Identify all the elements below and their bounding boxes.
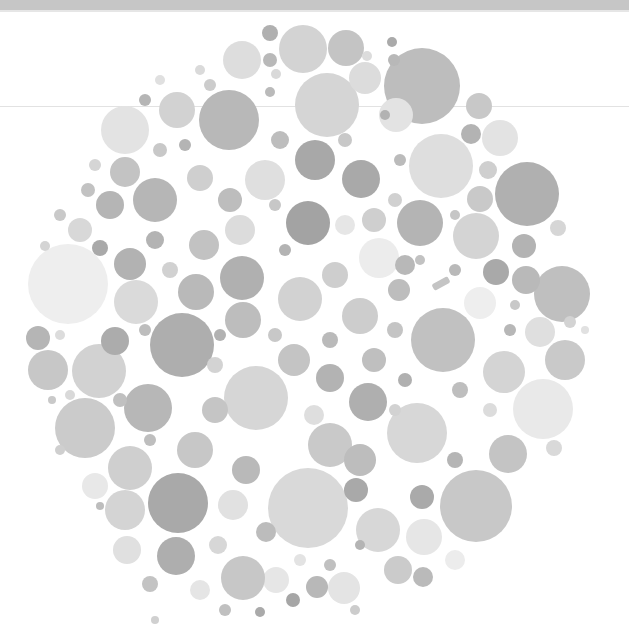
- dot: [220, 256, 264, 300]
- dot: [295, 140, 335, 180]
- dot: [359, 238, 399, 278]
- dot: [108, 446, 152, 490]
- dot: [92, 240, 108, 256]
- dot: [534, 266, 590, 322]
- dot: [81, 183, 95, 197]
- dot: [483, 351, 525, 393]
- dot: [413, 567, 433, 587]
- dot: [406, 519, 442, 555]
- dot: [342, 298, 378, 334]
- dot: [447, 452, 463, 468]
- dot: [139, 94, 151, 106]
- dot: [398, 373, 412, 387]
- dot: [268, 328, 282, 342]
- dot: [512, 266, 540, 294]
- dot: [150, 313, 214, 377]
- dot: [179, 139, 191, 151]
- dot: [513, 379, 573, 439]
- dot: [389, 404, 401, 416]
- dot: [271, 69, 281, 79]
- dot: [294, 554, 306, 566]
- dot: [278, 344, 310, 376]
- dot: [262, 25, 278, 41]
- dot: [483, 259, 509, 285]
- dot: [268, 468, 348, 548]
- dot: [328, 30, 364, 66]
- dot: [55, 445, 65, 455]
- dot: [338, 133, 352, 147]
- dot: [295, 73, 359, 137]
- dot: [218, 188, 242, 212]
- dot: [218, 490, 248, 520]
- dot: [467, 186, 493, 212]
- dot: [495, 162, 559, 226]
- dot: [153, 143, 167, 157]
- dot: [110, 157, 140, 187]
- dot: [581, 326, 589, 334]
- dot: [304, 405, 324, 425]
- dot: [148, 473, 208, 533]
- dot: [157, 537, 195, 575]
- small-mark: [431, 276, 450, 291]
- dot: [349, 383, 387, 421]
- dot: [245, 160, 285, 200]
- dot: [449, 264, 461, 276]
- dot: [452, 382, 468, 398]
- dot: [101, 327, 129, 355]
- dot: [362, 348, 386, 372]
- dot: [68, 218, 92, 242]
- dot: [286, 593, 300, 607]
- dot: [159, 92, 195, 128]
- dot: [232, 456, 260, 484]
- dot: [387, 37, 397, 47]
- dot: [450, 210, 460, 220]
- dot: [349, 62, 381, 94]
- dot: [409, 134, 473, 198]
- dot: [224, 366, 288, 430]
- dot: [48, 396, 56, 404]
- dot: [113, 393, 127, 407]
- dot: [380, 110, 390, 120]
- dot: [190, 580, 210, 600]
- dot: [545, 340, 585, 380]
- dot: [564, 316, 576, 328]
- dot: [101, 106, 149, 154]
- dot: [466, 93, 492, 119]
- dot: [214, 329, 226, 341]
- dot: [207, 357, 223, 373]
- dot: [139, 324, 151, 336]
- dot: [65, 390, 75, 400]
- dot: [306, 576, 328, 598]
- dot: [550, 220, 566, 236]
- dot: [279, 244, 291, 256]
- dot: [269, 199, 281, 211]
- dot: [525, 317, 555, 347]
- dot: [355, 540, 365, 550]
- dot: [335, 215, 355, 235]
- dot: [440, 470, 512, 542]
- dot: [271, 131, 289, 149]
- dot: [54, 209, 66, 221]
- dot: [223, 41, 261, 79]
- dot: [322, 262, 348, 288]
- dot: [202, 397, 228, 423]
- dot: [483, 403, 497, 417]
- dot: [142, 576, 158, 592]
- dot: [350, 605, 360, 615]
- dot: [387, 322, 403, 338]
- dot: [265, 87, 275, 97]
- dot: [82, 473, 108, 499]
- dot: [204, 79, 216, 91]
- dot: [415, 255, 425, 265]
- dot: [324, 559, 336, 571]
- dot: [255, 607, 265, 617]
- dot: [178, 274, 214, 310]
- dot: [453, 213, 499, 259]
- dot: [395, 255, 415, 275]
- dot: [342, 160, 380, 198]
- dot: [479, 161, 497, 179]
- dot: [546, 440, 562, 456]
- dot: [344, 444, 376, 476]
- dot: [445, 550, 465, 570]
- dot: [278, 277, 322, 321]
